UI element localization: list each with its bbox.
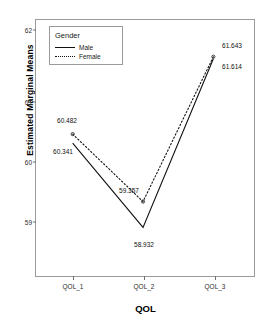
value-label-female-qol1: 60.482	[57, 117, 77, 124]
x-axis-title: QOL	[35, 303, 256, 314]
y-tick-label-62: 62	[25, 27, 36, 34]
series-line-female	[73, 57, 214, 202]
y-tick-label-59: 59	[25, 219, 36, 226]
legend-key-dotted-line-icon	[55, 53, 75, 60]
y-tick-label-61: 61	[25, 99, 36, 106]
legend-key-solid-line-icon	[55, 44, 75, 51]
legend-label-female: Female	[79, 53, 101, 60]
x-tick-label-qol2: QOL_2	[134, 283, 155, 290]
legend: Gender Male Female	[49, 26, 123, 65]
legend-item-male: Male	[55, 43, 117, 51]
chart-root: Estimated Marginal Means 62 61 60 59 QOL…	[0, 0, 269, 323]
value-label-female-qol2: 59.357	[119, 187, 139, 194]
legend-title: Gender	[55, 31, 117, 40]
x-tick-label-qol3: QOL_3	[205, 283, 226, 290]
value-label-male-qol1: 60.341	[53, 148, 73, 155]
plot-area: 62 61 60 59 QOL_1 QOL_2 QOL_3	[35, 19, 255, 277]
legend-item-female: Female	[55, 52, 117, 60]
legend-label-male: Male	[79, 44, 93, 51]
value-label-female-qol3: 61.643	[222, 42, 242, 49]
y-tick-label-60: 60	[25, 159, 36, 166]
value-label-male-qol2: 58.932	[134, 241, 154, 248]
x-tick-label-qol1: QOL_1	[63, 283, 84, 290]
value-label-male-qol3: 61.614	[222, 63, 242, 70]
